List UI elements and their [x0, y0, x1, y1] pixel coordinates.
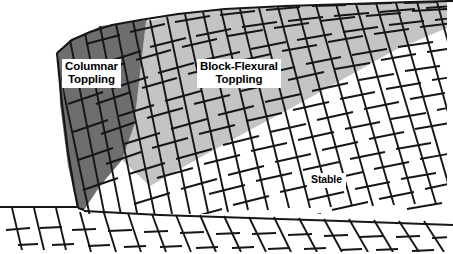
- label-columnar-line2: Toppling: [65, 73, 118, 86]
- rock-mass-illustration: [0, 0, 453, 254]
- label-block-flexural-toppling: Block-Flexural Toppling: [197, 59, 281, 88]
- label-columnar-toppling: Columnar Toppling: [62, 59, 121, 88]
- foundation-joint-set: [6, 208, 453, 252]
- label-columnar-line1: Columnar: [65, 60, 118, 73]
- foundation-blocks: [6, 208, 453, 252]
- label-block-flexural-line2: Toppling: [200, 73, 278, 86]
- label-block-flexural-line1: Block-Flexural: [200, 60, 278, 73]
- label-stable-line1: Stable: [311, 174, 342, 186]
- label-stable: Stable: [307, 173, 346, 188]
- toppling-diagram: Columnar Toppling Block-Flexural Topplin…: [0, 0, 453, 254]
